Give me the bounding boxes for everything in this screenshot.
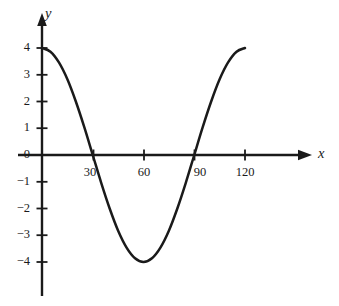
y-tick-label-2: 2 bbox=[10, 95, 30, 108]
x-tick-label-30: 30 bbox=[76, 166, 104, 179]
y-tick-label-neg1: −1 bbox=[6, 175, 30, 188]
y-tick-label-1: 1 bbox=[10, 121, 30, 134]
y-tick-label-neg3: −3 bbox=[6, 228, 30, 241]
y-axis-label: y bbox=[45, 6, 51, 21]
x-axis-arrowhead bbox=[298, 150, 312, 160]
y-tick-label-neg2: −2 bbox=[6, 202, 30, 215]
x-tick-label-60: 60 bbox=[130, 166, 158, 179]
graph-figure: 4 3 2 1 0 −1 −2 −3 −4 30 60 90 120 y x bbox=[0, 0, 339, 306]
y-tick-label-3: 3 bbox=[10, 68, 30, 81]
y-tick-label-0: 0 bbox=[10, 148, 30, 161]
x-tick-label-120: 120 bbox=[231, 166, 259, 179]
plot-area bbox=[0, 0, 339, 306]
y-tick-label-neg4: −4 bbox=[6, 255, 30, 268]
x-tick-label-90: 90 bbox=[186, 166, 214, 179]
x-axis-label: x bbox=[318, 146, 324, 161]
y-tick-label-4: 4 bbox=[10, 41, 30, 54]
